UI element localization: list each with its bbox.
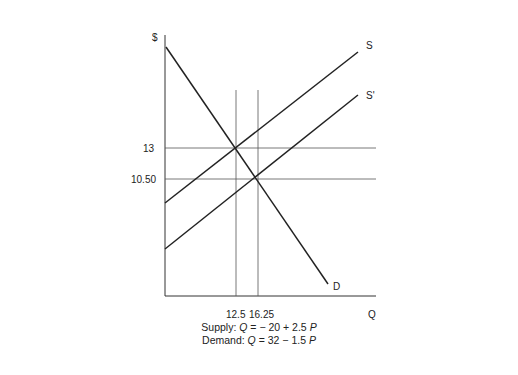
- demand-equation: Demand: Q = 32 − 1.5 P: [0, 334, 518, 347]
- x-tick-16-25: 16.25: [249, 309, 274, 320]
- demand-equation-q: Q: [248, 334, 256, 346]
- y-axis-label: $: [152, 32, 158, 43]
- supply-equation-body: = − 20 + 2.5: [247, 321, 309, 333]
- supply-label: S: [366, 40, 373, 51]
- y-tick-10-50: 10.50: [131, 174, 156, 185]
- supply-shifted-curve: [165, 95, 358, 249]
- supply-curve: [165, 52, 358, 203]
- demand-equation-p: P: [309, 334, 316, 346]
- supply-shifted-label: S': [366, 90, 375, 101]
- y-tick-13: 13: [143, 143, 155, 154]
- demand-label: D: [333, 281, 340, 292]
- x-axis-label: Q: [368, 309, 376, 320]
- demand-equation-body: = 32 − 1.5: [256, 334, 309, 346]
- demand-curve: [166, 47, 328, 284]
- x-tick-12-5: 12.5: [226, 309, 246, 320]
- supply-equation-p: P: [310, 321, 317, 333]
- supply-demand-chart: $ Q 13 10.50 12.5 16.25 S S' D: [0, 0, 518, 375]
- supply-equation: Supply: Q = − 20 + 2.5 P: [0, 321, 518, 334]
- supply-equation-prefix: Supply:: [201, 321, 239, 333]
- demand-equation-prefix: Demand:: [202, 334, 248, 346]
